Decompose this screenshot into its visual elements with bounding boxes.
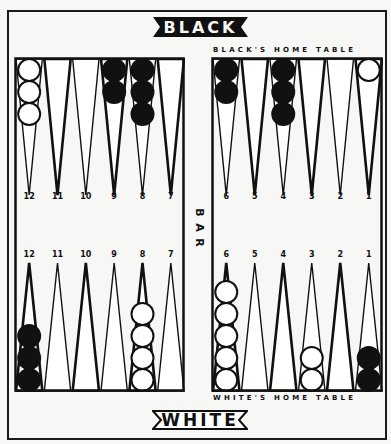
bar-label: B A R xyxy=(192,205,206,250)
point-number-label: 1 xyxy=(359,250,379,259)
point-number-label: 9 xyxy=(104,192,124,201)
left-board-frame xyxy=(14,57,186,393)
bar-letter: B xyxy=(191,208,206,216)
point-number-label: 1 xyxy=(359,192,379,201)
black-side-banner: BLACK xyxy=(153,17,248,37)
point-number-label: 6 xyxy=(216,250,236,259)
bar-letter: A xyxy=(191,223,206,232)
black-banner-text: BLACK xyxy=(164,18,238,37)
point-number-label: 10 xyxy=(76,250,96,259)
point-number-label: 6 xyxy=(216,192,236,201)
point-number-label: 9 xyxy=(104,250,124,259)
black-home-table-label: BLACK'S HOME TABLE xyxy=(213,46,356,54)
point-number-label: 4 xyxy=(273,192,293,201)
point-number-label: 7 xyxy=(161,192,181,201)
bar-letter: R xyxy=(191,238,206,246)
white-side-banner: WHITE xyxy=(152,410,248,430)
point-number-label: 8 xyxy=(133,192,153,201)
point-number-label: 3 xyxy=(302,192,322,201)
point-number-label: 12 xyxy=(19,250,39,259)
backgammon-board-diagram: BLACK BLACK'S HOME TABLE 121110987 65432… xyxy=(0,0,391,444)
point-number-label: 4 xyxy=(273,250,293,259)
point-number-label: 3 xyxy=(302,250,322,259)
white-banner-text: WHITE xyxy=(161,410,239,430)
point-number-label: 2 xyxy=(330,192,350,201)
right-board-frame xyxy=(211,57,384,393)
point-number-label: 8 xyxy=(133,250,153,259)
white-home-table-label: WHITE'S HOME TABLE xyxy=(213,394,356,402)
point-number-label: 5 xyxy=(245,192,265,201)
point-number-label: 10 xyxy=(76,192,96,201)
point-number-label: 7 xyxy=(161,250,181,259)
point-number-label: 11 xyxy=(48,192,68,201)
point-number-label: 2 xyxy=(330,250,350,259)
point-number-label: 11 xyxy=(48,250,68,259)
point-number-label: 5 xyxy=(245,250,265,259)
point-number-label: 12 xyxy=(19,192,39,201)
